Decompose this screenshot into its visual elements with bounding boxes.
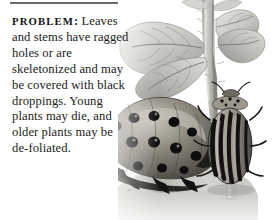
problem-text-block: PROBLEM: Leaves and stems have ragged ho… [12, 14, 130, 157]
photo-illustration [118, 0, 272, 220]
problem-body-text: Leaves and stems have ragged holes or ar… [12, 14, 128, 155]
problem-paragraph: PROBLEM: Leaves and stems have ragged ho… [12, 14, 130, 157]
pest-photograph [118, 0, 272, 220]
problem-label: PROBLEM [12, 15, 74, 27]
photo-bottom-fade [118, 192, 272, 220]
page-root: PROBLEM: Leaves and stems have ragged ho… [0, 0, 272, 220]
